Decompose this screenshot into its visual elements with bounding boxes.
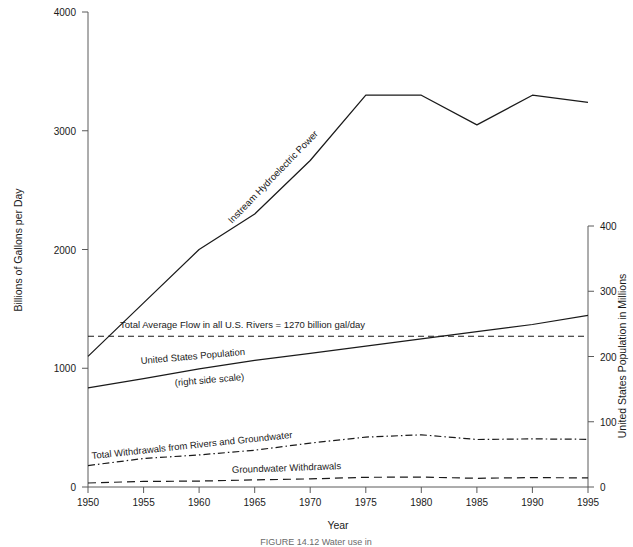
y2-tick-label-100: 100 — [600, 417, 617, 428]
y-axis-right-title: United States Population in Millions — [616, 274, 628, 439]
series-label-groundwater-withdrawals: Groundwater Withdrawals — [232, 460, 342, 475]
figure-container: 0 1000 2000 3000 4000 0 100 200 300 400 — [0, 0, 633, 547]
y2-tick-label-200: 200 — [600, 352, 617, 363]
series-line-groundwater-withdrawals — [88, 477, 588, 483]
series-line-instream-hydroelectric-power — [88, 95, 588, 356]
series-label-united-states-population: United States Population — [140, 346, 245, 366]
x-axis-title: Year — [327, 519, 349, 531]
series-label-total-withdrawals: Total Withdrawals from Rivers and Ground… — [91, 429, 293, 461]
x-tick-label-1965: 1965 — [244, 497, 267, 508]
water-use-line-chart: 0 1000 2000 3000 4000 0 100 200 300 400 — [0, 0, 633, 547]
y2-tick-label-0: 0 — [600, 482, 606, 493]
x-tick-label-1980: 1980 — [410, 497, 433, 508]
x-tick-label-1995: 1995 — [577, 497, 600, 508]
y-tick-label-4000: 4000 — [54, 7, 77, 18]
axes-spines — [88, 12, 588, 487]
y-tick-label-0: 0 — [70, 482, 76, 493]
x-tick-label-1990: 1990 — [521, 497, 544, 508]
series-label-united-states-population-sub: (right side scale) — [174, 371, 244, 388]
y-axis-left-title: Billions of Gallons per Day — [12, 188, 24, 312]
y-tick-label-3000: 3000 — [54, 126, 77, 137]
series-label-total-average-flow: Total Average Flow in all U.S. Rivers = … — [120, 319, 365, 330]
y-axis-left-ticks: 0 1000 2000 3000 4000 — [54, 7, 88, 493]
y-tick-label-2000: 2000 — [54, 245, 77, 256]
y-axis-right-ticks: 0 100 200 300 400 — [588, 221, 617, 493]
series-label-instream-hydroelectric-power: Instream Hydroelectric Power — [226, 128, 320, 225]
x-tick-label-1970: 1970 — [299, 497, 322, 508]
x-tick-label-1960: 1960 — [188, 497, 211, 508]
y-tick-label-1000: 1000 — [54, 363, 77, 374]
x-axis-ticks: 1950 1955 1960 1965 1970 1975 1980 1985 … — [77, 487, 600, 508]
x-tick-label-1975: 1975 — [355, 497, 378, 508]
figure-caption: FIGURE 14.12 Water use in — [260, 537, 372, 547]
x-tick-label-1955: 1955 — [132, 497, 155, 508]
x-tick-label-1985: 1985 — [466, 497, 489, 508]
y2-tick-label-400: 400 — [600, 221, 617, 232]
x-tick-label-1950: 1950 — [77, 497, 100, 508]
y2-tick-label-300: 300 — [600, 286, 617, 297]
